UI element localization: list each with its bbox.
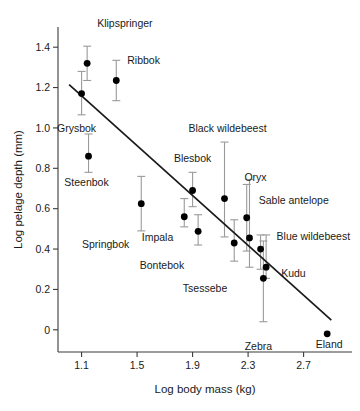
data-point-marker [231,240,238,247]
x-tick-label: 2.3 [241,359,256,371]
data-point-label: Ribbok [127,54,160,66]
data-point-marker [243,214,250,221]
data-point-label: Tsessebe [183,282,228,294]
data-point-marker [221,195,228,202]
data-point-label: Sable antelope [259,194,329,206]
data-point-label-layer: KlipspringerGrysbokRibbokSteenbokSpringb… [57,17,350,352]
data-point-marker [181,213,188,220]
y-axis-title: Log pelage depth (mm) [12,130,24,249]
data-point-marker [195,228,202,235]
data-point-label: Grysbok [57,122,97,134]
y-tick-label: 0 [44,324,50,336]
data-point-marker [189,187,196,194]
data-point-marker [260,275,267,282]
x-tick-label: 1.5 [130,359,145,371]
y-tick-label: 1.0 [35,122,50,134]
data-point-label: Black wildebeest [188,122,266,134]
y-tick-label: 1.4 [35,41,50,53]
data-point-marker [78,90,85,97]
x-axis-title: Log body mass (kg) [155,383,256,395]
data-point-marker [85,153,92,160]
data-point-label: Bontebok [140,259,185,271]
pelage-depth-vs-body-mass-chart: 00.20.40.60.81.01.21.41.11.51.92.32.7 Kl… [0,0,360,411]
x-tick-label: 1.1 [74,359,89,371]
error-bar [180,199,188,227]
data-point-label: Blue wildebeest [277,230,351,242]
data-point-marker [257,246,264,253]
y-tick-label: 0.8 [35,162,50,174]
data-point-marker [324,330,331,337]
data-point-marker [263,264,270,271]
data-point-label: Impala [142,231,174,243]
x-tick-label: 1.9 [185,359,200,371]
data-point-label: Zebra [245,340,273,352]
data-point-label: Eland [316,338,343,350]
data-point-label: Klipspringer [97,17,153,29]
data-point-marker [113,77,120,84]
data-point-marker [246,235,253,242]
y-tick-label: 1.2 [35,81,50,93]
y-tick-label: 0.6 [35,202,50,214]
x-tick-label: 2.7 [296,359,311,371]
data-point-label: Steenbok [64,176,109,188]
data-point-label: Springbok [82,238,130,250]
y-tick-label: 0.2 [35,283,50,295]
scatter-plot-figure: 00.20.40.60.81.01.21.41.11.51.92.32.7 Kl… [0,0,360,411]
data-point-label: Kudu [281,267,306,279]
y-tick-label: 0.4 [35,243,50,255]
data-point-marker [138,200,145,207]
data-point-label: Oryx [244,171,267,183]
data-point-marker [84,60,91,67]
data-point-label: Blesbok [174,152,212,164]
